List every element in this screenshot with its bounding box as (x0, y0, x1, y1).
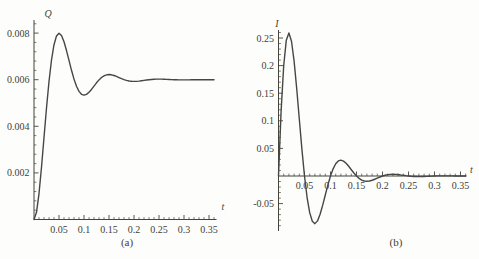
x-tick-label: 0.1 (78, 224, 91, 235)
x-tick-label: 0.2 (128, 224, 141, 235)
x-axis-label: t (222, 201, 225, 212)
charge-curve (34, 33, 214, 219)
y-tick-label: 0.05 (257, 143, 275, 154)
y-tick-label: 0.002 (7, 167, 30, 178)
y-tick-label: -0.05 (253, 198, 274, 209)
caption-a: (a) (121, 236, 133, 248)
y-axis-label: Q (44, 8, 52, 19)
chart-b: 0.050.10.150.20.250.30.35-0.050.050.10.1… (253, 18, 473, 231)
x-tick-label: 0.35 (200, 224, 218, 235)
chart-a: 0.050.10.150.20.250.30.350.0020.0040.006… (7, 8, 225, 235)
current-curve (279, 33, 466, 224)
x-tick-label: 0.05 (50, 224, 68, 235)
x-tick-label: 0.3 (428, 180, 441, 191)
y-tick-label: 0.1 (262, 115, 275, 126)
x-tick-label: 0.2 (376, 180, 389, 191)
plots-svg: 0.050.10.150.20.250.30.350.0020.0040.006… (0, 0, 479, 259)
caption-b: (b) (390, 236, 403, 248)
figure: 0.050.10.150.20.250.30.350.0020.0040.006… (0, 0, 479, 259)
y-tick-label: 0.15 (257, 88, 275, 99)
x-tick-label: 0.15 (348, 180, 366, 191)
x-tick-label: 0.3 (178, 224, 191, 235)
y-tick-label: 0.2 (262, 60, 275, 71)
y-tick-label: 0.006 (7, 74, 30, 85)
x-tick-label: 0.15 (100, 224, 118, 235)
y-tick-label: 0.004 (7, 121, 30, 132)
x-tick-label: 0.25 (400, 180, 418, 191)
y-tick-label: 0.008 (7, 28, 30, 39)
y-axis-label: I (274, 18, 279, 29)
x-axis-label: t (470, 164, 473, 175)
x-tick-label: 0.35 (452, 180, 470, 191)
x-tick-label: 0.25 (150, 224, 168, 235)
y-tick-label: 0.25 (257, 33, 275, 44)
